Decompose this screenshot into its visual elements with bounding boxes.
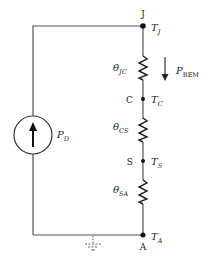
- temp-label-tj: TJ: [151, 22, 161, 36]
- node-c-label: C: [126, 95, 133, 105]
- temp-label-ts: TS: [151, 156, 163, 170]
- temp-subscript: S: [158, 162, 163, 170]
- current-source-icon: [14, 116, 52, 154]
- resistor-label-theta-sa: θSA: [113, 184, 128, 198]
- resistor-subscript: JC: [117, 68, 127, 76]
- node-s-label: S: [127, 157, 133, 167]
- temp-subscript: A: [157, 237, 163, 245]
- temp-label-tc: TC: [151, 94, 163, 108]
- resistor-theta-cs: [139, 118, 147, 142]
- node-a-label: A: [139, 242, 147, 252]
- temp-label-ta: TA: [151, 231, 163, 245]
- thermal-circuit-diagram: J C S A TJ TC TS TA θJC θCS θSA PREM PD: [0, 0, 214, 259]
- resistor-label-theta-jc: θJC: [113, 62, 127, 76]
- resistor-theta-jc: [139, 56, 147, 80]
- source-label-p-d: PD: [56, 129, 70, 143]
- node-c-dot: [141, 97, 145, 101]
- resistor-theta-sa: [139, 180, 147, 204]
- node-s-dot: [141, 159, 145, 163]
- temp-subscript: C: [158, 100, 163, 108]
- ground-icon: [85, 236, 101, 250]
- source-subscript: D: [63, 135, 70, 143]
- resistor-label-theta-cs: θCS: [113, 121, 129, 135]
- heat-flow-arrow-icon: [162, 57, 169, 81]
- flow-label-p-rem: PREM: [175, 65, 199, 79]
- resistor-subscript: SA: [119, 190, 128, 198]
- node-a-dot: [141, 233, 146, 238]
- resistor-subscript: CS: [119, 127, 129, 135]
- flow-subscript: REM: [183, 71, 200, 79]
- node-j-dot: [140, 23, 146, 29]
- node-j-label: J: [140, 9, 145, 19]
